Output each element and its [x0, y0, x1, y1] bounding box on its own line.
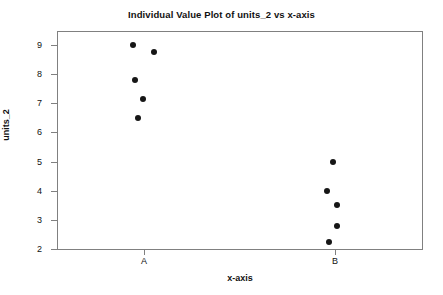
x-axis-title: x-axis — [57, 273, 423, 283]
y-tick-label: 2 — [0, 244, 42, 254]
y-tick-mark — [51, 220, 57, 221]
x-tick-mark — [144, 250, 145, 255]
data-point — [151, 49, 157, 55]
y-tick-mark — [51, 103, 57, 104]
data-point — [326, 239, 332, 245]
x-tick-mark — [335, 250, 336, 255]
x-tick-label-a: A — [114, 256, 174, 266]
y-tick-label: 3 — [0, 215, 42, 225]
y-tick-label: 8 — [0, 69, 42, 79]
data-point — [330, 159, 336, 165]
y-tick-label: 7 — [0, 98, 42, 108]
data-point — [334, 223, 340, 229]
y-tick-mark — [51, 249, 57, 250]
y-tick-label: 4 — [0, 186, 42, 196]
y-tick-mark — [51, 162, 57, 163]
y-tick-mark — [51, 45, 57, 46]
x-tick-label-b: B — [305, 256, 365, 266]
individual-value-plot: Individual Value Plot of units_2 vs x-ax… — [0, 0, 443, 295]
y-tick-label: 9 — [0, 40, 42, 50]
y-tick-mark — [51, 191, 57, 192]
y-tick-label: 5 — [0, 157, 42, 167]
y-tick-mark — [51, 132, 57, 133]
y-tick-label: 6 — [0, 127, 42, 137]
data-point — [140, 96, 146, 102]
data-point — [130, 42, 136, 48]
chart-title: Individual Value Plot of units_2 vs x-ax… — [0, 9, 443, 20]
plot-area — [57, 31, 423, 250]
y-tick-mark — [51, 74, 57, 75]
